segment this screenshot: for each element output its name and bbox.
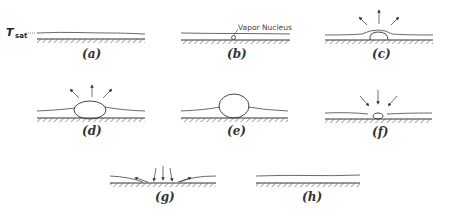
vapor-nucleus-icon [232, 36, 236, 40]
arrow-icon [103, 90, 111, 98]
liquid-line [37, 32, 145, 34]
panel-label-a: (a) [82, 47, 101, 61]
arrow-icon [389, 96, 397, 105]
arrow-icon [360, 18, 367, 25]
panel-e: (e) [181, 94, 288, 138]
arrow-icon [178, 178, 190, 182]
tsat-label: T [6, 26, 15, 39]
panel-label-g: (g) [155, 190, 175, 204]
panel-label-c: (c) [372, 47, 391, 61]
arrow-icon [391, 18, 398, 25]
vapor-bubble [370, 32, 388, 40]
tsat-subscript: sat [15, 32, 28, 40]
bubble-sequence-diagram: T sat (a) Vapor Nucleus (b) (c) [0, 0, 449, 213]
arrow-icon [170, 168, 172, 180]
vapor-bubble [74, 101, 106, 119]
panel-b: Vapor Nucleus (b) [181, 23, 292, 61]
panel-label-h: (h) [302, 190, 322, 204]
arrow-icon [360, 96, 368, 105]
panel-label-e: (e) [227, 124, 246, 138]
panel-d: (d) [37, 86, 145, 138]
panel-label-d: (d) [82, 124, 102, 138]
arrow-icon [154, 168, 156, 180]
panel-g: (g) [110, 166, 216, 204]
panel-a: T sat (a) [6, 26, 145, 61]
vapor-bubble [219, 94, 249, 118]
panel-label-b: (b) [227, 47, 247, 61]
panel-label-f: (f) [372, 125, 389, 139]
panel-c: (c) [325, 11, 433, 61]
panel-f: (f) [325, 90, 432, 139]
panel-h: (h) [256, 175, 360, 204]
vapor-bubble [373, 113, 383, 119]
vapor-nucleus-annotation: Vapor Nucleus [238, 23, 292, 32]
arrow-icon [71, 90, 79, 98]
